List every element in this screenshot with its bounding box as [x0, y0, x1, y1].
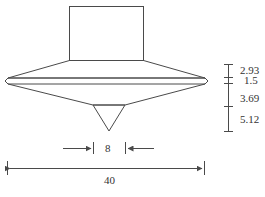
upper-taper: [8, 61, 205, 79]
dim-label-tip-width: 8: [105, 142, 111, 154]
overall-width-dimension: [8, 161, 205, 175]
tip-triangle: [93, 105, 125, 131]
handle-rectangle: [70, 7, 144, 61]
dim-label-lower-cone: 3.69: [240, 92, 260, 104]
rim-band: [5, 78, 208, 84]
dim-label-tip: 5.12: [240, 113, 259, 125]
diagram-canvas: 2.93 1.5 3.69 5.12 8 40: [0, 0, 265, 197]
vertical-dimension-bar: [224, 64, 233, 132]
dim-label-overall-width: 40: [104, 174, 116, 186]
lower-cone: [8, 84, 205, 105]
dim-label-rim-band: 1.5: [244, 74, 258, 86]
